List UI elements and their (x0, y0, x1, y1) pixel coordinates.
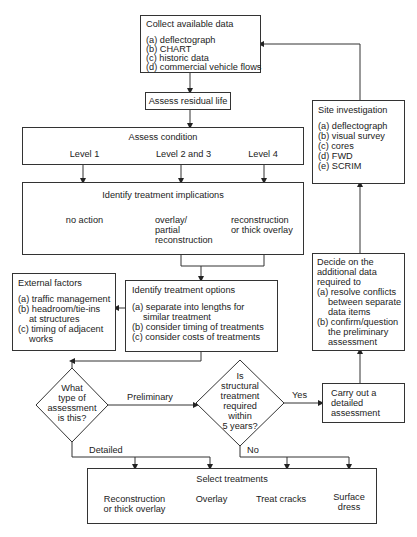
implication-overlay: overlay/ partial reconstruction (155, 215, 213, 245)
condition-title: Assess condition (23, 132, 303, 144)
edge-label-detailed: Detailed (89, 445, 123, 455)
collect-title: Collect available data (146, 19, 233, 31)
external-title: External factors (18, 278, 82, 290)
select-treat-cracks: Treat cracks (242, 494, 320, 506)
residual-title: Assess residual life (146, 96, 230, 108)
select-overlay: Overlay (181, 494, 242, 506)
select-title: Select treatments (88, 474, 376, 486)
condition-level-4: Level 4 (221, 149, 305, 161)
site-title: Site investigation (318, 105, 387, 117)
site-investigation-box: Site investigation (a) deflectograph (b)… (312, 100, 405, 184)
select-reconstruction: Reconstruction or thick overlay (88, 494, 181, 514)
q2-line: 5 years? (210, 421, 270, 433)
q1-line: is this? (42, 413, 102, 425)
select-treatments-box: Select treatments Reconstruction or thic… (87, 468, 377, 524)
options-item: (c) consider costs of treatments (132, 332, 260, 344)
assess-condition-box: Assess condition Level 1 Level 2 and 3 L… (22, 127, 304, 165)
options-title: Identify treatment options (132, 285, 235, 297)
condition-level-1: Level 1 (23, 149, 146, 161)
external-item: works (18, 334, 53, 346)
implication-reconstruction: reconstruction or thick overlay (231, 215, 293, 235)
treatment-implications-box: Identify treatment implications no actio… (22, 182, 304, 255)
select-surface-dress: Surface dress (320, 492, 378, 512)
implication-no-action: no action (23, 215, 146, 227)
site-item: (e) SCRIM (318, 161, 361, 173)
collect-item: (d) commercial vehicle flows (146, 62, 261, 74)
treatment-options-box: Identify treatment options (a) separate … (125, 280, 278, 352)
assess-residual-life-box: Assess residual life (145, 92, 231, 110)
implications-title: Identify treatment implications (23, 190, 303, 202)
decide-line: assessment (317, 337, 377, 349)
detailed-line: assessment (331, 408, 380, 420)
condition-level-2-3: Level 2 and 3 (146, 149, 221, 161)
edge-label-yes: Yes (292, 390, 307, 400)
carry-out-detailed-assessment-box: Carry out a detailed assessment (322, 383, 405, 423)
edge-label-no: No (247, 445, 259, 455)
collect-data-box: Collect available data (a) deflectograph… (140, 15, 261, 73)
external-factors-box: External factors (a) traffic management … (12, 273, 116, 351)
edge-label-preliminary: Preliminary (127, 392, 173, 402)
decide-additional-data-box: Decide on the additional data required t… (312, 253, 405, 351)
